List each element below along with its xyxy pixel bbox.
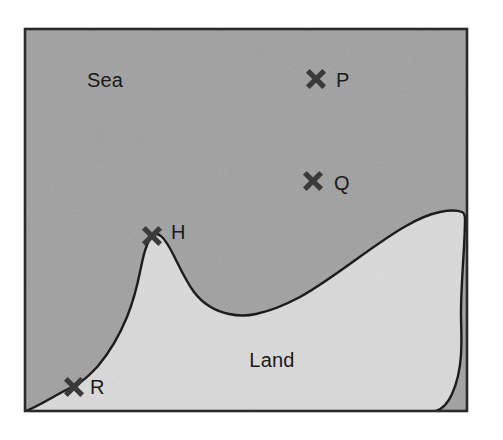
region-label-land: Land	[249, 349, 294, 371]
marker-label-r: R	[90, 376, 104, 398]
marker-label-q: Q	[334, 172, 350, 194]
region-label-sea: Sea	[87, 69, 124, 91]
marker-label-h: H	[171, 221, 185, 243]
coastline-map-svg: SeaLand PQHR	[0, 0, 503, 440]
marker-label-p: P	[336, 69, 349, 91]
coastline-map-figure: SeaLand PQHR	[0, 0, 503, 440]
